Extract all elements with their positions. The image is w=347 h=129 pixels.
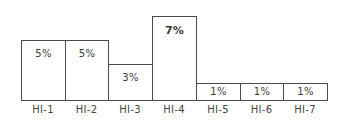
bar-chart: 5%HI-15%HI-23%HI-37%HI-41%HI-51%HI-61%HI… <box>0 0 347 129</box>
bar-value-label: 7% <box>153 24 196 37</box>
category-label: HI-1 <box>21 104 65 115</box>
bar-hi-5: 1% <box>196 83 241 101</box>
bar-hi-4: 7% <box>152 16 197 101</box>
bar-value-label: 5% <box>66 48 108 59</box>
category-label: HI-2 <box>65 104 108 115</box>
bar-hi-2: 5% <box>65 40 109 101</box>
category-label: HI-5 <box>196 104 240 115</box>
bar-hi-6: 1% <box>240 83 284 101</box>
bar-hi-1: 5% <box>21 40 66 101</box>
bar-value-label: 5% <box>22 48 65 59</box>
bar-value-label: 1% <box>284 86 327 97</box>
bar-hi-3: 3% <box>108 64 153 101</box>
category-label: HI-3 <box>108 104 152 115</box>
category-label: HI-6 <box>240 104 283 115</box>
bar-value-label: 1% <box>197 86 240 97</box>
category-label: HI-7 <box>283 104 327 115</box>
category-label: HI-4 <box>152 104 196 115</box>
bar-value-label: 1% <box>241 86 283 97</box>
bar-hi-7: 1% <box>283 83 328 101</box>
bar-value-label: 3% <box>109 72 152 83</box>
